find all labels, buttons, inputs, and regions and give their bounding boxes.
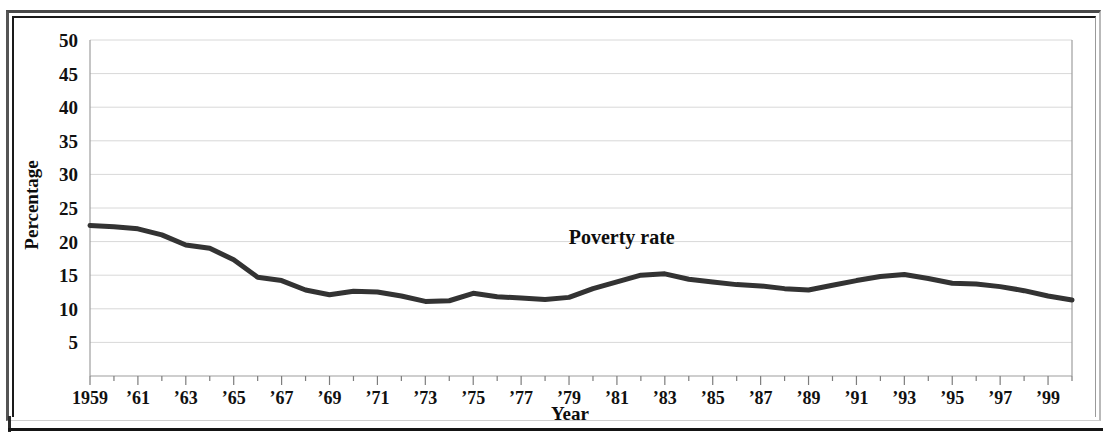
y-axis-tick-labels: 5045403530252015105 (59, 30, 78, 353)
x-tick-label: ’95 (940, 388, 964, 408)
gridlines (90, 40, 1072, 342)
x-tick-label: 1959 (72, 388, 108, 408)
y-tick-label: 50 (59, 30, 78, 51)
series-annotations: Poverty rate (569, 226, 675, 249)
chart-canvas: 5045403530252015105 1959’61’63’65’67’69’… (0, 0, 1107, 439)
x-tick-label: ’99 (1036, 388, 1060, 408)
x-tick-label: ’73 (413, 388, 437, 408)
x-tick-label: ’93 (892, 388, 916, 408)
y-tick-label: 15 (59, 265, 78, 286)
x-tick-label: ’77 (509, 388, 533, 408)
x-tick-label: ’89 (797, 388, 821, 408)
x-tick-label: ’91 (844, 388, 868, 408)
y-tick-label: 25 (59, 198, 78, 219)
poverty-rate-line-chart: 5045403530252015105 1959’61’63’65’67’69’… (0, 0, 1107, 439)
y-axis-title: Percentage (21, 160, 42, 249)
y-tick-label: 20 (59, 232, 78, 253)
x-tick-label: ’97 (988, 388, 1012, 408)
y-tick-label: 40 (59, 97, 78, 118)
x-tick-label: ’81 (605, 388, 629, 408)
x-tick-label: ’65 (222, 388, 246, 408)
x-tick-label: ’71 (365, 388, 389, 408)
x-tick-label: ’83 (653, 388, 677, 408)
x-tick-label: ’85 (701, 388, 725, 408)
y-tick-label: 45 (59, 64, 78, 85)
x-tick-label: ’63 (174, 388, 198, 408)
y-tick-label: 5 (69, 332, 79, 353)
x-tick-label: ’75 (461, 388, 485, 408)
x-tick-label: ’87 (749, 388, 773, 408)
y-tick-label: 10 (59, 299, 78, 320)
y-tick-label: 30 (59, 164, 78, 185)
x-tick-label: ’67 (270, 388, 294, 408)
x-tick-label: ’69 (318, 388, 342, 408)
x-axis-title: Year (551, 403, 590, 424)
annotation-poverty-rate: Poverty rate (569, 226, 675, 249)
x-tick-label: ’61 (126, 388, 150, 408)
x-axis-tickmarks (90, 376, 1072, 385)
y-tick-label: 35 (59, 131, 78, 152)
